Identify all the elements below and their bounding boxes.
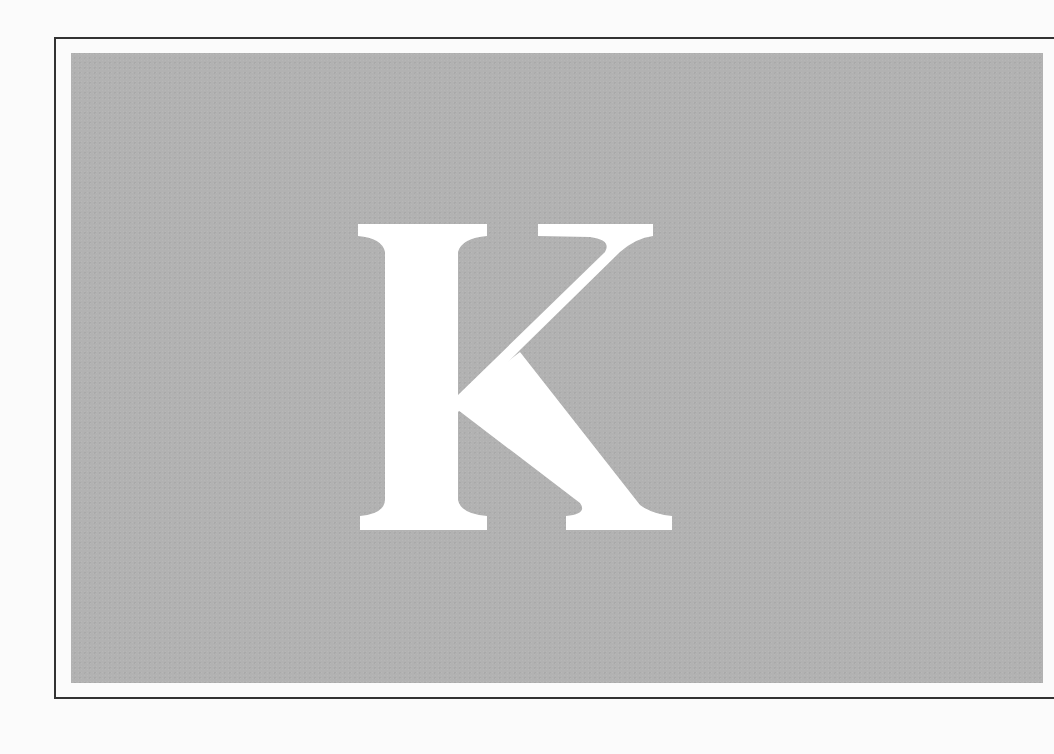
- letter-k-glyph: [0, 0, 1043, 754]
